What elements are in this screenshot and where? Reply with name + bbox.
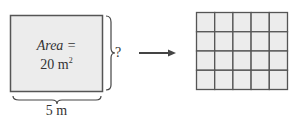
grid-cell bbox=[251, 51, 269, 70]
grid-cell bbox=[269, 51, 287, 70]
area-value-text: 20 m bbox=[40, 57, 68, 72]
area-value: 20 m2 bbox=[10, 56, 103, 73]
grid-cell bbox=[233, 13, 251, 32]
area-unit-exponent: 2 bbox=[69, 56, 73, 65]
grid-cell bbox=[269, 32, 287, 51]
width-label: 5 m bbox=[10, 103, 103, 119]
area-label: Area = bbox=[10, 38, 103, 54]
grid-cell bbox=[233, 32, 251, 51]
arrow-icon bbox=[139, 50, 176, 57]
grid-cell bbox=[197, 51, 215, 70]
grid-cell bbox=[251, 13, 269, 32]
grid-cell bbox=[215, 70, 233, 89]
height-unknown-label: ? bbox=[115, 45, 121, 61]
unit-square-grid bbox=[197, 13, 288, 90]
grid-cell bbox=[197, 70, 215, 89]
grid-cell bbox=[269, 13, 287, 32]
grid-cell bbox=[251, 32, 269, 51]
grid-cell bbox=[269, 70, 287, 89]
grid-cell bbox=[215, 32, 233, 51]
grid-cell bbox=[215, 13, 233, 32]
grid-cell bbox=[233, 51, 251, 70]
grid-cell bbox=[251, 70, 269, 89]
grid-cell bbox=[233, 70, 251, 89]
grid-cell bbox=[215, 51, 233, 70]
grid-cell bbox=[197, 13, 215, 32]
grid-cell bbox=[197, 32, 215, 51]
height-brace bbox=[106, 16, 115, 90]
